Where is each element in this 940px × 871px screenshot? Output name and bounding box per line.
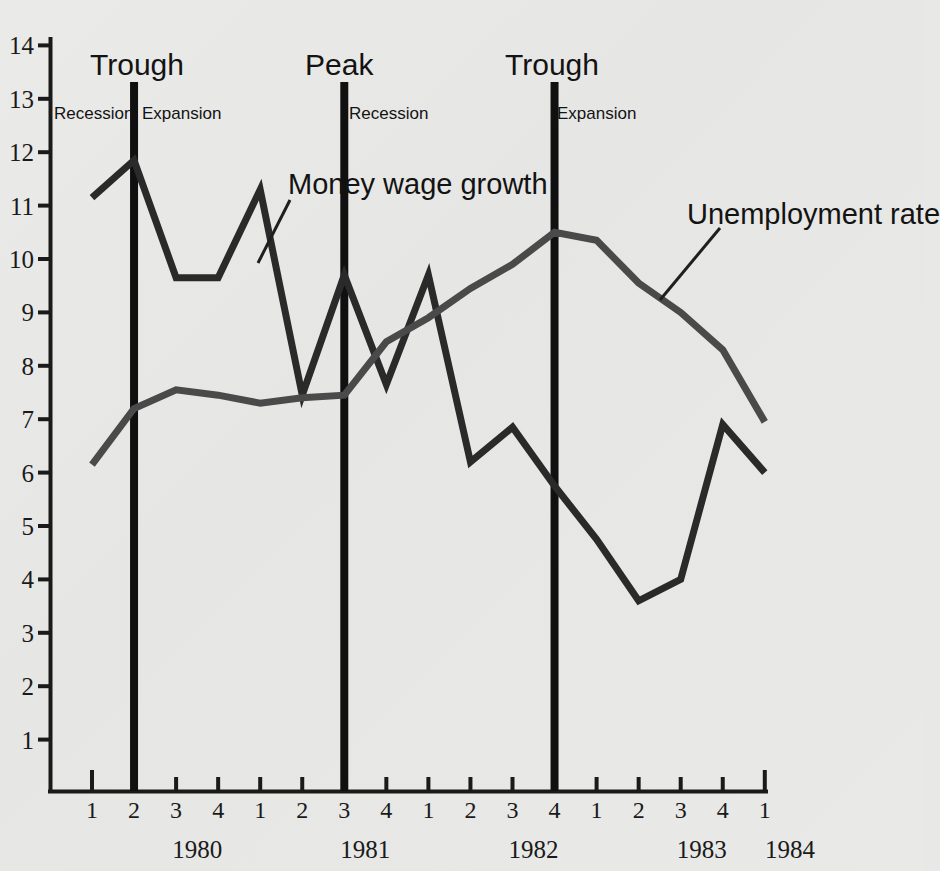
x-quarter-tick-label: 3 — [324, 798, 364, 822]
x-quarter-tick-label: 4 — [535, 798, 575, 822]
y-tick-label: 2 — [0, 674, 34, 699]
x-quarter-tick-label: 2 — [619, 798, 659, 822]
trough-label-1982: Trough — [505, 50, 599, 80]
x-quarter-tick-label: 3 — [493, 798, 533, 822]
x-quarter-tick-label: 3 — [661, 798, 701, 822]
x-quarter-tick-label: 4 — [198, 798, 238, 822]
x-quarter-tick-label: 1 — [240, 798, 280, 822]
y-tick-label: 3 — [0, 621, 34, 646]
money-wage-growth-label: Money wage growth — [288, 170, 548, 199]
callout-leader-lines — [258, 200, 720, 300]
y-tick-label: 1 — [0, 728, 34, 753]
series-line-money-wage-growth — [92, 160, 765, 601]
y-tick-label: 9 — [0, 300, 34, 325]
y-tick-label: 7 — [0, 407, 34, 432]
x-quarter-tick-label: 3 — [156, 798, 196, 822]
x-axis — [48, 770, 768, 792]
x-quarter-tick-label: 4 — [703, 798, 743, 822]
x-quarter-tick-label: 1 — [72, 798, 112, 822]
trough-label-1980: Trough — [90, 50, 184, 80]
x-quarter-tick-label: 1 — [577, 798, 617, 822]
y-tick-label: 12 — [0, 140, 34, 165]
expansion-label-2: Expansion — [557, 105, 636, 122]
x-quarter-tick-label: 4 — [366, 798, 406, 822]
y-tick-label: 11 — [0, 194, 34, 219]
y-tick-label: 5 — [0, 514, 34, 539]
x-quarter-tick-label: 2 — [450, 798, 490, 822]
x-quarter-tick-label: 1 — [745, 798, 785, 822]
y-tick-label: 13 — [0, 87, 34, 112]
recession-label-1: Recession — [54, 105, 133, 122]
unemployment-rate-label: Unemployment rate — [687, 200, 940, 229]
x-year-label: 1981 — [305, 837, 425, 862]
x-year-label: 1984 — [730, 837, 850, 862]
y-tick-label: 10 — [0, 247, 34, 272]
y-tick-label: 4 — [0, 567, 34, 592]
y-tick-label: 14 — [0, 33, 34, 58]
x-year-label: 1982 — [474, 837, 594, 862]
y-tick-label: 8 — [0, 354, 34, 379]
x-quarter-tick-label: 2 — [282, 798, 322, 822]
data-series-group — [92, 160, 765, 601]
x-year-label: 1980 — [137, 837, 257, 862]
y-tick-label: 6 — [0, 461, 34, 486]
x-quarter-tick-label: 1 — [408, 798, 448, 822]
y-axis — [38, 37, 51, 793]
expansion-label-1: Expansion — [142, 105, 221, 122]
recession-label-2: Recession — [349, 105, 428, 122]
peak-label-1981: Peak — [305, 50, 373, 80]
x-quarter-tick-label: 2 — [114, 798, 154, 822]
